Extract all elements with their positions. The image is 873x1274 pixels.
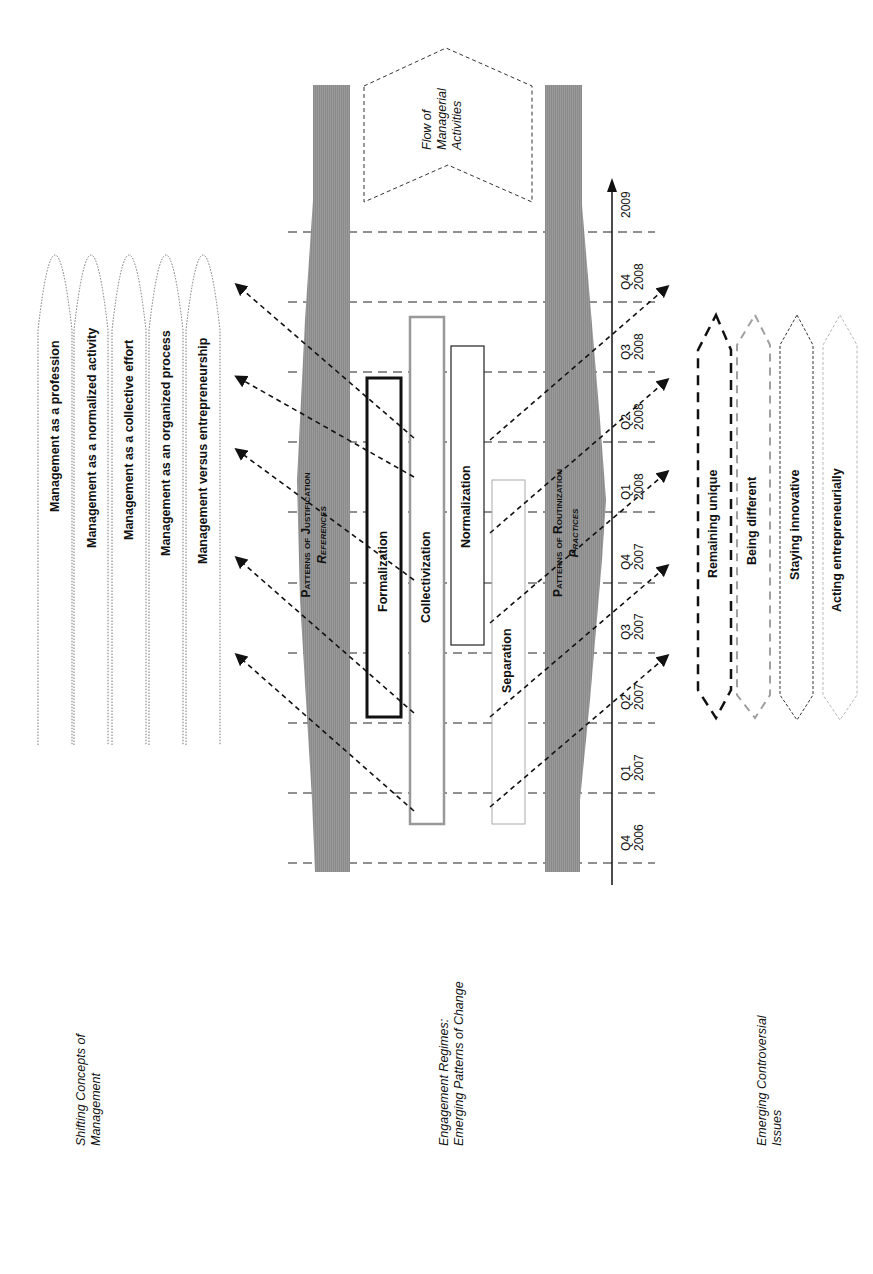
routinization-band-label: Patterns of Routinization Practices xyxy=(550,413,582,653)
flow-label-line1: Flow of xyxy=(420,88,435,150)
tick-year: 2006 xyxy=(633,824,646,851)
tick-year: 2008 xyxy=(633,473,646,500)
timeline-tick: Q22008 xyxy=(620,403,646,430)
timeline-tick: Q42007 xyxy=(620,543,646,570)
collectivization-label: Collectivization xyxy=(419,531,433,623)
justification-subtitle: References xyxy=(314,415,330,655)
concept-label: Management as a collective effort xyxy=(122,340,136,540)
tick-year: 2008 xyxy=(633,333,646,360)
section-concepts-line2: Management xyxy=(89,1034,104,1146)
section-label-concepts: Shifting Concepts of Management xyxy=(74,1034,104,1146)
tick-year: 2007 xyxy=(633,754,646,781)
timeline-arrowhead-icon xyxy=(607,178,617,192)
section-regimes-line2: Emerging Patterns of Change xyxy=(452,981,467,1146)
flow-label-line2: Managerial xyxy=(435,88,450,150)
justification-title: Patterns of Justification xyxy=(298,415,314,655)
issue-label: Being different xyxy=(745,477,759,565)
normalization-label: Normalization xyxy=(459,465,473,548)
issue-label: Acting entrepreneurially xyxy=(830,468,844,612)
routinization-title: Patterns of Routinization xyxy=(550,413,566,653)
concept-label: Management as a normalized activity xyxy=(85,328,99,548)
section-issues-line1: Emerging Controversial xyxy=(755,1015,770,1146)
timeline-tick: Q42008 xyxy=(620,263,646,290)
timeline-tick: Q12007 xyxy=(620,754,646,781)
section-label-regimes: Engagement Regimes: Emerging Patterns of… xyxy=(437,981,467,1146)
concept-label: Management as an organized process xyxy=(159,330,173,556)
tick-year: 2007 xyxy=(633,613,646,640)
separation-label: Separation xyxy=(500,628,514,693)
timeline-tick: Q32008 xyxy=(620,333,646,360)
tick-year: 2007 xyxy=(633,543,646,570)
justification-band-label: Patterns of Justification References xyxy=(298,415,330,655)
section-concepts-line1: Shifting Concepts of xyxy=(74,1034,89,1146)
timeline-tick: Q42006 xyxy=(620,824,646,851)
timeline-tick: Q32007 xyxy=(620,613,646,640)
timeline-end-label: 2009 xyxy=(620,191,633,218)
tick-year: 2008 xyxy=(633,263,646,290)
flow-label-line3: Activities xyxy=(450,88,465,150)
timeline-tick: Q12008 xyxy=(620,473,646,500)
section-issues-line2: Issues xyxy=(770,1015,785,1146)
flow-label: Flow of Managerial Activities xyxy=(420,88,465,150)
timeline-tick: Q22007 xyxy=(620,683,646,710)
diagram-canvas: Management as a profession Management as… xyxy=(0,0,873,1274)
section-regimes-line1: Engagement Regimes: xyxy=(437,981,452,1146)
issue-label: Remaining unique xyxy=(706,470,720,578)
issue-label: Staying innovative xyxy=(788,470,802,580)
concept-label: Management versus entrepreneurship xyxy=(196,338,210,564)
section-label-issues: Emerging Controversial Issues xyxy=(755,1015,785,1146)
tick-year: 2008 xyxy=(633,403,646,430)
tick-year: 2007 xyxy=(633,683,646,710)
formalization-label: Formalization xyxy=(376,531,390,612)
concept-label: Management as a profession xyxy=(48,340,62,512)
routinization-subtitle: Practices xyxy=(566,413,582,653)
